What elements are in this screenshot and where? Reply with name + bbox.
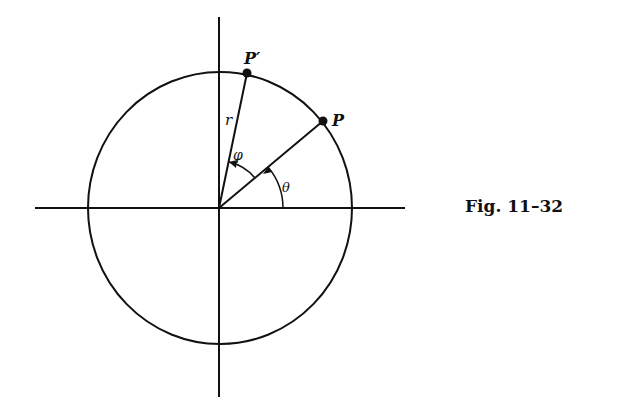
label-theta: θ <box>282 180 290 195</box>
point-p-prime <box>243 69 252 78</box>
point-p <box>319 117 328 126</box>
label-r: r <box>225 111 233 129</box>
figure-caption: Fig. 11–32 <box>465 196 563 216</box>
theta-arc <box>268 167 283 208</box>
label-phi: φ <box>233 147 243 163</box>
label-p: P <box>331 111 345 130</box>
label-p-prime: P′ <box>243 49 261 68</box>
